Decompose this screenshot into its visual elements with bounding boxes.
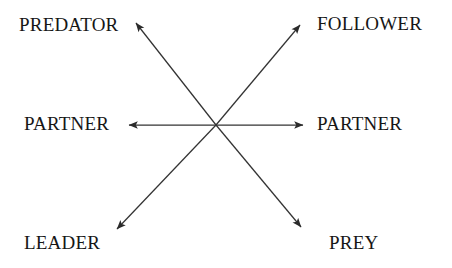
arrow-to-predator [136,23,216,125]
node-label-prey: PREY [329,232,378,254]
arrow-to-leader [117,125,216,229]
diagram-canvas: PREDATOR FOLLOWER PARTNER PARTNER LEADER… [0,0,452,268]
node-label-partner-left: PARTNER [24,113,109,135]
node-label-partner-right: PARTNER [317,113,402,135]
node-label-follower: FOLLOWER [317,13,422,35]
node-label-predator: PREDATOR [19,14,118,36]
node-label-leader: LEADER [24,232,100,254]
arrow-to-prey [216,125,301,227]
arrow-to-follower [216,25,300,125]
